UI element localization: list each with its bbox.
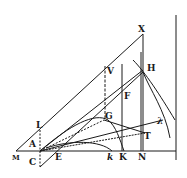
label-V: V [106,66,115,76]
label-lambda: λ [156,116,163,126]
label-k: k [107,152,113,162]
line-AT [40,133,145,151]
label-N: N [138,152,146,162]
label-K: K [119,152,128,162]
geometric-figure: X H V F G L A M C E k K N T λ [0,0,187,178]
label-E: E [55,152,62,162]
label-L: L [36,120,43,130]
label-M: M [12,153,20,162]
figure-canvas: X H V F G L A M C E k K N T λ [0,0,187,178]
label-X: X [138,24,145,34]
label-F: F [124,91,131,101]
label-C: C [29,157,36,167]
label-A: A [28,139,37,149]
label-G: G [105,111,113,121]
label-T: T [144,131,151,141]
label-H: H [147,63,156,73]
